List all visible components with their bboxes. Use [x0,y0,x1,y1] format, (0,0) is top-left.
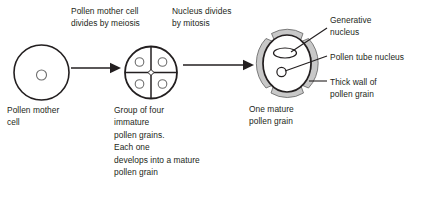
stage2-caption: Group of four immature pollen grains. Ea… [114,104,200,178]
tetrad-nucleus-icon [158,58,167,67]
process-step-mitosis-label: Nucleus divides by mitosis [172,5,231,30]
pollen-development-diagram: Pollen mother cell divides by meiosis Nu… [0,0,435,200]
arrow-meiosis [71,63,121,73]
stage1-caption: Pollen mother cell [7,104,59,129]
callout-generative-nucleus-label: Generative nucleus [330,14,371,39]
tetrad-nucleus-icon [135,80,144,89]
pollen-tube-nucleus-icon [277,67,286,76]
tetrad-nucleus-icon [158,80,167,89]
pollen-mother-cell-nucleus-icon [37,70,47,80]
generative-nucleus-icon [274,48,297,58]
stage2-tetrad [125,47,177,99]
stage1-pollen-mother-cell [14,45,69,100]
callout-thick-wall-label: Thick wall of pollen grain [330,76,377,101]
tetrad-nucleus-icon [135,58,144,67]
callout-pollen-tube-nucleus-label: Pollen tube nucleus [330,51,404,63]
arrow-mitosis [183,60,254,70]
stage3-caption: One mature pollen grain [249,103,294,128]
process-step-meiosis-label: Pollen mother cell divides by meiosis [71,5,140,30]
